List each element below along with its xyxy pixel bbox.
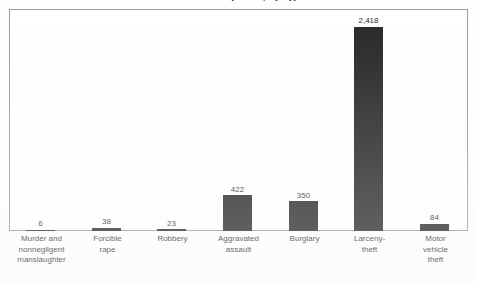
- category-label-line: Larceny-: [338, 234, 401, 245]
- category-label: Robbery: [141, 234, 204, 245]
- bar[interactable]: [289, 201, 318, 231]
- category-label-line: Burglary: [273, 234, 336, 245]
- bar[interactable]: [223, 195, 252, 231]
- bar[interactable]: [354, 27, 383, 231]
- category-label-line: Murder and: [10, 234, 73, 245]
- category-label: Burglary: [273, 234, 336, 245]
- category-label-line: assault: [207, 245, 270, 256]
- category-label-line: manslaughter: [10, 255, 73, 266]
- bar-value-label: 6: [17, 219, 64, 228]
- category-label-line: Robbery: [141, 234, 204, 245]
- category-label-line: nonnegligent: [10, 245, 73, 256]
- bar[interactable]: [26, 230, 55, 232]
- chart-screenshot: Offenses Reported, by Type 638234223502,…: [0, 0, 478, 282]
- category-label-line: Motor: [404, 234, 467, 245]
- category-label-line: theft: [338, 245, 401, 256]
- bar-group[interactable]: 422: [223, 9, 252, 231]
- category-label: Motorvehicletheft: [404, 234, 467, 266]
- category-label-line: Aggravated: [207, 234, 270, 245]
- chart-title: Offenses Reported, by Type: [0, 0, 478, 1]
- category-label: Aggravatedassault: [207, 234, 270, 255]
- bar-value-label: 84: [411, 213, 458, 222]
- bar-value-label: 23: [148, 219, 195, 228]
- bar[interactable]: [157, 229, 186, 231]
- category-label-line: rape: [76, 245, 139, 256]
- bar[interactable]: [420, 224, 449, 231]
- category-axis-labels: Murder andnonnegligentmanslaughterForcib…: [9, 234, 468, 282]
- category-label-line: Forcible: [76, 234, 139, 245]
- bar-group[interactable]: 23: [157, 9, 186, 231]
- bar-group[interactable]: 350: [289, 9, 318, 231]
- chart-title-clipped: Offenses Reported, by Type: [0, 0, 478, 1]
- category-label: Larceny-theft: [338, 234, 401, 255]
- bar[interactable]: [92, 228, 121, 231]
- category-label: Murder andnonnegligentmanslaughter: [10, 234, 73, 266]
- bar-group[interactable]: 2,418: [354, 9, 383, 231]
- category-label: Forciblerape: [76, 234, 139, 255]
- bar-value-label: 2,418: [345, 16, 392, 25]
- bar-value-label: 350: [280, 191, 327, 200]
- bar-group[interactable]: 6: [26, 9, 55, 231]
- bar-group[interactable]: 38: [92, 9, 121, 231]
- bar-value-label: 38: [83, 217, 130, 226]
- bar-group[interactable]: 84: [420, 9, 449, 231]
- category-label-line: vehicle: [404, 245, 467, 256]
- category-label-line: theft: [404, 255, 467, 266]
- bar-value-label: 422: [214, 185, 261, 194]
